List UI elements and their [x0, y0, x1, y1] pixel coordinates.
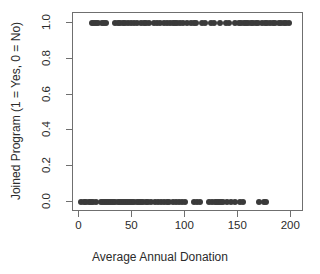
data-points-layer: [73, 13, 302, 210]
x-tick-label: 150: [228, 219, 247, 231]
y-tick-label: 0.8: [40, 50, 52, 66]
data-point: [103, 20, 109, 26]
y-tick-label: 0.2: [40, 157, 52, 173]
x-axis-title: Average Annual Donation: [0, 250, 320, 264]
data-point: [263, 199, 269, 205]
data-point: [211, 20, 217, 26]
y-tick-mark: [66, 94, 72, 95]
y-tick-label: 0.6: [40, 86, 52, 102]
y-tick-label: 1.0: [40, 14, 52, 30]
x-tick-mark: [290, 211, 291, 217]
y-tick-mark: [66, 165, 72, 166]
data-point: [226, 20, 232, 26]
y-tick-mark: [66, 22, 72, 23]
scatter-plot: 050100150200 0.00.20.40.60.81.0 Average …: [0, 0, 320, 274]
data-point: [193, 20, 199, 26]
data-point: [286, 20, 292, 26]
y-tick-mark: [66, 129, 72, 130]
data-point: [182, 199, 188, 205]
y-axis-title: Joined Program (1 = Yes, 0 = No): [9, 22, 23, 200]
x-tick-label: 200: [281, 219, 300, 231]
y-tick-mark: [66, 201, 72, 202]
plot-panel: [72, 12, 303, 211]
y-tick-mark: [66, 58, 72, 59]
x-tick-label: 100: [175, 219, 194, 231]
x-tick-mark: [237, 211, 238, 217]
x-tick-mark: [78, 211, 79, 217]
data-point: [197, 199, 203, 205]
x-tick-label: 0: [75, 219, 81, 231]
y-tick-label: 0.4: [40, 121, 52, 137]
x-tick-mark: [184, 211, 185, 217]
data-point: [240, 199, 246, 205]
x-tick-label: 50: [125, 219, 138, 231]
x-tick-mark: [131, 211, 132, 217]
y-tick-label: 0.0: [40, 193, 52, 209]
